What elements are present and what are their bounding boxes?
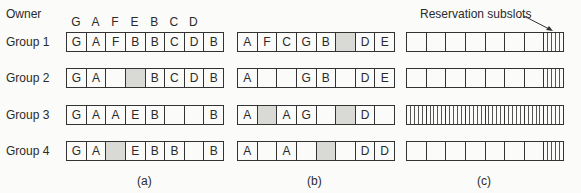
annotation-arrow-icon <box>0 0 581 193</box>
